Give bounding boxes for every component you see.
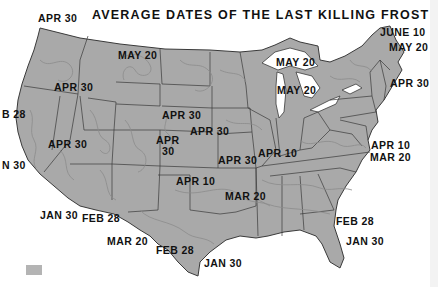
- frost-date-label: APR 30: [218, 155, 257, 166]
- frost-date-label: FEB 28: [82, 213, 120, 224]
- frost-date-label: MAR 20: [107, 236, 148, 247]
- frost-date-label: JUNE 10: [380, 27, 425, 38]
- map-title: AVERAGE DATES OF THE LAST KILLING FROST: [92, 8, 429, 22]
- frost-date-label: APR 30: [190, 126, 229, 137]
- frost-date-label: MAR 20: [370, 152, 411, 163]
- frost-date-label: MAY 20: [389, 42, 428, 53]
- frost-date-label: APR 30: [48, 139, 87, 150]
- frost-date-label: APR 30: [38, 13, 77, 24]
- frost-date-label: MAY 20: [276, 57, 315, 68]
- frost-date-label: JAN 30: [204, 258, 242, 269]
- frost-date-label: MAR 20: [225, 191, 266, 202]
- frost-date-label: MAY 20: [118, 50, 157, 61]
- frost-date-label: FEB 28: [336, 216, 374, 227]
- frost-date-label: N 30: [2, 160, 26, 171]
- frost-date-label: APR 10: [258, 148, 297, 159]
- frost-date-label: APR 10: [371, 140, 410, 151]
- legend-swatch: [26, 265, 42, 275]
- frost-date-label: MAY 20: [277, 85, 316, 96]
- frost-date-label: B 28: [2, 109, 26, 120]
- frost-date-label: APR 30: [54, 82, 93, 93]
- frost-date-label: APR 10: [176, 176, 215, 187]
- frost-date-label: JAN 30: [346, 236, 384, 247]
- frost-date-label: JAN 30: [40, 210, 78, 221]
- frost-date-label: APR 30: [162, 110, 201, 121]
- frost-date-label: FEB 28: [156, 245, 194, 256]
- frost-date-label: APR 30: [390, 78, 429, 89]
- frost-date-label: 30: [162, 146, 174, 157]
